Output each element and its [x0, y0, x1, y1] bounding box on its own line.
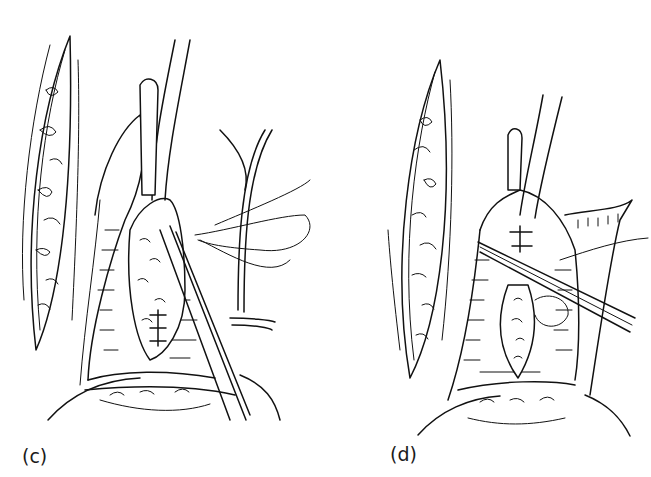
- panel-d-drawing: [330, 0, 651, 440]
- panel-d: (d): [330, 0, 651, 477]
- panel-c-drawing: [0, 0, 330, 440]
- panel-c: (c): [0, 0, 330, 477]
- panel-d-label: (d): [390, 445, 417, 464]
- surgical-illustration-figure: (c): [0, 0, 651, 477]
- panel-c-label: (c): [22, 447, 47, 466]
